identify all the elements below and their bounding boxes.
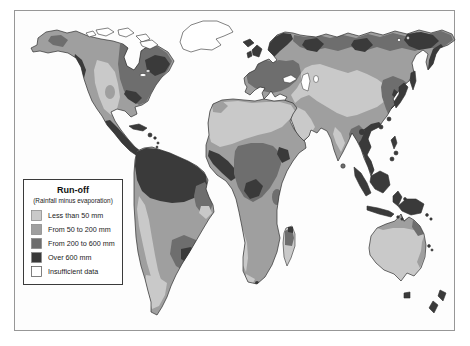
continent-south-america [134, 147, 214, 315]
legend-swatch [31, 252, 42, 263]
siberia-no-data-spot [407, 37, 410, 40]
borneo [370, 171, 390, 193]
sakhalin [410, 71, 416, 90]
aral-sea [314, 76, 319, 83]
philippines-island [394, 151, 398, 155]
legend-swatch-color [32, 225, 42, 235]
legend-swatch [31, 210, 42, 221]
cuba [129, 124, 147, 131]
south-china-zone-over-600 [391, 104, 411, 122]
legend-item-label: Less than 50 mm [48, 211, 103, 220]
hispaniola [148, 133, 152, 137]
java [367, 206, 394, 217]
legend-item-label: From 200 to 600 mm [48, 239, 115, 248]
legend-swatch-color [32, 239, 42, 249]
philippines [391, 136, 397, 149]
legend-item: Insufficient data [31, 266, 122, 277]
arctic-island [96, 28, 114, 36]
legend-swatch-color [32, 211, 42, 221]
lesser-sunda [397, 216, 400, 219]
legend-swatch-color [32, 267, 42, 277]
east-africa-zone-200-600 [272, 189, 282, 205]
taiwan [387, 117, 391, 121]
bengal-zone-over-600 [359, 129, 365, 135]
arctic-island [118, 28, 134, 37]
madagascar [283, 226, 295, 266]
legend-item: From 200 to 600 mm [31, 238, 122, 249]
philippines-island [390, 157, 394, 161]
world-runoff-map [0, 0, 470, 346]
great-lakes [140, 73, 146, 76]
great-lakes-small [146, 70, 150, 72]
iceland [243, 39, 254, 47]
great-britain [252, 45, 262, 57]
legend-item: Less than 50 mm [31, 210, 122, 221]
greenland [180, 21, 233, 52]
solomon-islands [426, 214, 429, 217]
caribbean-islands [129, 124, 159, 148]
sri-lanka [341, 164, 345, 168]
continent-australia [369, 212, 426, 281]
legend-title: Run-off [24, 185, 122, 195]
legend-swatch [31, 266, 42, 277]
sumatra [354, 167, 371, 196]
hainan [379, 125, 383, 129]
new-guinea [398, 199, 424, 215]
north-america-interior-patch [105, 85, 115, 99]
tasmania [404, 292, 410, 298]
legend-item-label: From 50 to 200 mm [48, 225, 111, 234]
ireland [247, 51, 252, 58]
madagascar-tip-zone-over-600 [288, 227, 293, 233]
legend-item-label: Over 600 mm [48, 253, 92, 262]
new-caledonia [428, 245, 431, 248]
legend-items: Less than 50 mm From 50 to 200 mm From 2… [31, 210, 122, 277]
vanuatu [431, 249, 433, 251]
legend-swatch-color [32, 253, 42, 263]
lesser-antilles [157, 142, 159, 144]
solomon-islands [430, 218, 432, 220]
lesser-antilles [156, 146, 158, 148]
new-zealand-south [429, 301, 438, 313]
legend-swatch [31, 238, 42, 249]
legend-item-label: Insufficient data [48, 267, 98, 276]
legend-swatch [31, 224, 42, 235]
legend-item: Over 600 mm [31, 252, 122, 263]
new-zealand-north [438, 290, 446, 301]
siberia-no-data-spot [397, 38, 400, 41]
continent-north-america [31, 30, 174, 158]
legend-item: From 50 to 200 mm [31, 224, 122, 235]
legend: Run-off (Rainfall minus evaporation) Les… [23, 179, 123, 285]
puerto-rico [154, 137, 157, 140]
lesser-sunda [401, 218, 403, 220]
legend-subtitle: (Rainfall minus evaporation) [24, 197, 122, 204]
